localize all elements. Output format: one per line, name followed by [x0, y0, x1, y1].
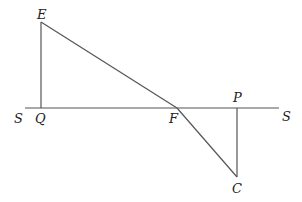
label-E: E — [36, 7, 47, 22]
label-S-right: S — [282, 109, 291, 124]
geometry-diagram: E Q F P C S S — [0, 0, 302, 202]
label-P: P — [232, 90, 242, 105]
segment-EF — [41, 22, 177, 108]
label-C: C — [232, 181, 242, 196]
label-F: F — [168, 111, 179, 126]
label-S-left: S — [14, 111, 23, 126]
segment-FC — [177, 108, 237, 177]
label-Q: Q — [35, 111, 46, 126]
